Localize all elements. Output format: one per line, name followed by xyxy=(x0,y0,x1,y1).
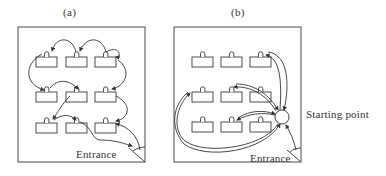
display-box xyxy=(192,117,213,132)
display-box xyxy=(66,118,87,133)
entrance-label-a: Entrance xyxy=(76,148,117,160)
layout-diagram xyxy=(0,0,386,176)
knob-icon xyxy=(45,87,49,92)
display-box xyxy=(250,52,271,67)
knob-icon xyxy=(75,118,79,123)
knob-icon xyxy=(45,118,49,123)
display-box xyxy=(221,52,242,67)
display-box xyxy=(36,52,57,67)
display-box xyxy=(221,87,242,102)
display-box xyxy=(250,117,271,132)
panel-label-b: (b) xyxy=(231,6,245,18)
knob-icon xyxy=(201,117,205,122)
entrance-label-b: Entrance xyxy=(250,152,291,164)
panel-label-a: (a) xyxy=(63,6,76,18)
display-box xyxy=(95,118,116,133)
display-box xyxy=(95,52,116,67)
knob-icon xyxy=(230,117,234,122)
knob-icon xyxy=(104,118,108,123)
knob-icon xyxy=(230,87,234,92)
starting-point-marker xyxy=(275,110,289,124)
knob-icon xyxy=(230,52,234,57)
knob-icon xyxy=(259,117,263,122)
display-box xyxy=(192,52,213,67)
display-box xyxy=(66,52,87,67)
knob-icon xyxy=(201,52,205,57)
display-box xyxy=(36,87,57,102)
display-box xyxy=(66,87,87,102)
panel-b xyxy=(174,27,301,162)
display-boxes-b xyxy=(192,52,271,132)
knob-icon xyxy=(45,52,49,57)
entrance-door-a xyxy=(129,147,145,162)
knob-icon xyxy=(201,87,205,92)
knob-icon xyxy=(104,87,108,92)
display-box xyxy=(192,87,213,102)
starting-point-label: Starting point xyxy=(306,108,369,120)
knob-icon xyxy=(104,52,108,57)
knob-icon xyxy=(259,52,263,57)
display-boxes-a xyxy=(36,52,116,133)
knob-icon xyxy=(75,52,79,57)
display-box xyxy=(36,118,57,133)
panel-a xyxy=(18,27,145,162)
figure-canvas: (a) (b) Entrance Entrance Starting point xyxy=(0,0,386,176)
